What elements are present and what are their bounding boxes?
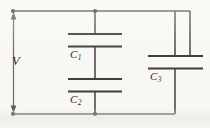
capacitor-1-label: C1	[70, 49, 81, 60]
capacitor-2-symbol: C	[70, 93, 78, 105]
circuit-diagram-figure: V C1 C2 C3	[0, 0, 210, 128]
node-dot-top-middle	[93, 9, 97, 13]
source-voltage-label: V	[12, 55, 20, 68]
voltage-arrow-head-down	[11, 106, 17, 114]
capacitor-3-label: C3	[150, 71, 161, 82]
capacitor-2-subscript: 2	[78, 98, 82, 107]
capacitor-3-symbol: C	[150, 70, 158, 82]
node-dot-top-left	[11, 9, 15, 13]
capacitor-2-label: C2	[70, 94, 81, 105]
capacitor-3-subscript: 3	[158, 75, 162, 84]
voltage-arrow-head-up	[11, 12, 17, 20]
capacitor-1-subscript: 1	[78, 53, 82, 62]
circuit-schematic-canvas	[0, 0, 210, 128]
node-dot-bottom-middle	[93, 112, 97, 116]
capacitor-1-symbol: C	[70, 48, 78, 60]
source-voltage-symbol: V	[12, 54, 20, 68]
node-dot-bottom-left	[11, 112, 15, 116]
